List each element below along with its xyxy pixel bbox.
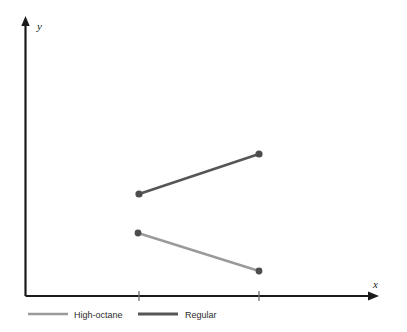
series-regular-line: [139, 154, 259, 194]
series-high-octane-point-2: [256, 268, 263, 275]
y-axis-arrowhead: [21, 16, 29, 26]
series-regular-point-2: [255, 150, 262, 157]
legend: High-octane Regular: [28, 310, 217, 320]
series-high-octane: [135, 230, 263, 275]
y-axis-label: y: [36, 20, 42, 32]
legend-label-high-octane: High-octane: [74, 310, 123, 320]
interaction-plot: y x High-octane Regular: [0, 0, 407, 332]
x-axis-label: x: [372, 278, 378, 290]
chart-figure: y x High-octane Regular: [0, 0, 407, 332]
x-axis-arrowhead: [368, 292, 379, 301]
series-high-octane-point-1: [135, 230, 142, 237]
series-high-octane-line: [138, 233, 259, 271]
series-regular: [135, 150, 262, 197]
series-regular-point-1: [135, 190, 142, 197]
axes-group: [21, 16, 379, 300]
legend-label-regular: Regular: [185, 310, 217, 320]
